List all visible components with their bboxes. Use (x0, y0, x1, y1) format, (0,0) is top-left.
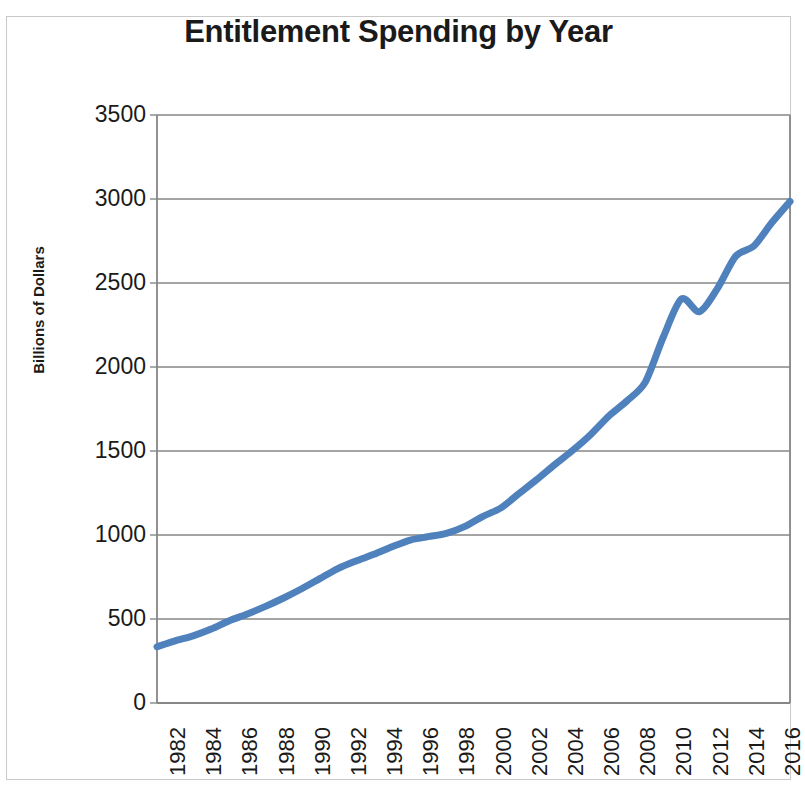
series-path (157, 202, 790, 647)
data-series-line (157, 202, 790, 647)
